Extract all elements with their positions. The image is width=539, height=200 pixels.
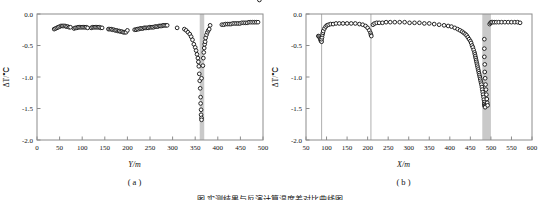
data-point — [388, 20, 392, 24]
data-point — [202, 46, 206, 50]
data-point — [485, 97, 489, 101]
x-axis-title-b: X/m — [269, 160, 538, 169]
x-tick-label: 200 — [362, 144, 373, 152]
data-point — [126, 29, 130, 33]
data-point — [483, 63, 487, 67]
data-point — [432, 22, 436, 26]
x-tick-label: 250 — [383, 144, 394, 152]
x-tick-label: 250 — [145, 144, 156, 152]
x-axis-title-a: Y/m — [0, 160, 269, 169]
figure-caption: 图 实测结果与反演计算温度差对比曲线图 — [0, 193, 539, 200]
data-point — [408, 21, 412, 25]
data-point — [197, 64, 201, 68]
data-point — [341, 22, 345, 26]
data-point — [345, 22, 349, 26]
x-tick-label: 400 — [213, 144, 224, 152]
data-point — [203, 40, 207, 44]
y-tick-label: -1.5 — [22, 105, 34, 113]
data-point — [393, 20, 397, 24]
data-point — [484, 88, 488, 92]
y-axis-title: ΔT/℃ — [2, 67, 11, 88]
x-tick-label: 550 — [506, 144, 517, 152]
data-point — [198, 86, 202, 90]
x-tick-label: 400 — [445, 144, 456, 152]
x-tick-label: 0 — [35, 144, 39, 152]
x-tick-label: 100 — [77, 144, 88, 152]
panel-sublabel-a: ( a ) — [0, 177, 269, 187]
data-point — [482, 55, 486, 59]
x-tick-label: 300 — [403, 144, 414, 152]
data-point — [413, 21, 417, 25]
data-point — [100, 26, 104, 30]
data-point — [175, 26, 179, 30]
data-point — [199, 102, 203, 106]
data-point — [384, 20, 388, 24]
data-point — [403, 20, 407, 24]
y-tick-label: -0.5 — [291, 42, 303, 50]
data-series — [316, 20, 521, 109]
data-point — [485, 93, 489, 97]
plot-frame — [37, 14, 263, 140]
plot-area-a: 0501001502002503003504004505000.0-0.5-1.… — [0, 0, 269, 162]
x-tick-label: 50 — [303, 144, 311, 152]
data-point — [482, 37, 486, 41]
y-tick-label: 0.0 — [24, 11, 33, 19]
data-point — [418, 21, 422, 25]
data-point — [442, 23, 446, 27]
x-tick-label: 600 — [527, 144, 538, 152]
data-point — [197, 72, 201, 76]
y-tick-label: -1.0 — [22, 74, 34, 82]
x-tick-label: 150 — [342, 144, 353, 152]
x-axis-variable-b: X/m — [397, 160, 410, 169]
data-point — [258, 0, 262, 2]
data-point — [337, 22, 341, 26]
data-point — [483, 76, 487, 80]
data-point — [381, 21, 385, 25]
y-tick-label: -2.0 — [291, 137, 303, 145]
x-tick-label: 350 — [424, 144, 435, 152]
x-tick-label: 350 — [190, 144, 201, 152]
figure-container: 0501001502002503003504004505000.0-0.5-1.… — [0, 0, 539, 200]
data-point — [518, 21, 522, 25]
data-point — [191, 38, 195, 42]
data-point — [195, 52, 199, 56]
x-tick-label: 50 — [56, 144, 64, 152]
data-point — [194, 49, 198, 53]
data-point — [202, 51, 206, 55]
data-point — [197, 60, 201, 64]
x-tick-label: 500 — [258, 144, 269, 152]
x-tick-label: 450 — [235, 144, 246, 152]
y-tick-label: -1.5 — [291, 105, 303, 113]
data-point — [398, 20, 402, 24]
y-tick-label: -2.0 — [22, 137, 34, 145]
x-axis-variable-a: Y/m — [128, 160, 140, 169]
x-tick-label: 500 — [486, 144, 497, 152]
chart-panel-b: 501001502002503003504004505005506000.0-0… — [269, 0, 538, 200]
data-point — [437, 23, 441, 27]
data-point — [427, 22, 431, 26]
data-point — [256, 20, 260, 24]
y-axis-title: ΔT/℃ — [271, 67, 280, 88]
y-tick-label: -0.5 — [22, 42, 34, 50]
plot-area-b: 501001502002503003504004505005506000.0-0… — [269, 0, 538, 162]
data-point — [486, 104, 490, 108]
data-point — [201, 64, 205, 68]
scatter-plot-b: 501001502002503003504004505005506000.0-0… — [269, 0, 538, 162]
data-point — [199, 95, 203, 99]
plot-frame — [306, 14, 532, 140]
x-tick-label: 100 — [321, 144, 332, 152]
data-point — [201, 56, 205, 60]
x-tick-label: 300 — [167, 144, 178, 152]
data-point — [483, 70, 487, 74]
data-point — [484, 83, 488, 87]
data-point — [353, 22, 357, 26]
data-point — [422, 22, 426, 26]
panel-sublabel-b: ( b ) — [269, 177, 538, 187]
data-point — [482, 47, 486, 51]
data-point — [200, 76, 204, 80]
data-point — [165, 23, 169, 27]
chart-panel-a: 0501001502002503003504004505000.0-0.5-1.… — [0, 0, 269, 200]
x-tick-label: 150 — [100, 144, 111, 152]
x-tick-label: 450 — [465, 144, 476, 152]
scatter-plot-a: 0501001502002503003504004505000.0-0.5-1.… — [0, 0, 269, 162]
